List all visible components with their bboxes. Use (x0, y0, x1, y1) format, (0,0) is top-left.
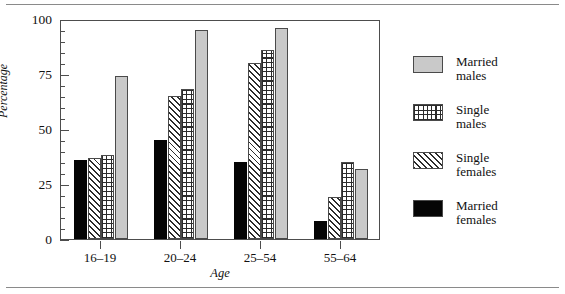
y-axis-minor-tick (60, 42, 65, 43)
y-axis-minor-tick (60, 31, 65, 32)
y-axis-tick-label: 50 (18, 123, 52, 137)
legend-item: Married males (413, 55, 498, 83)
y-axis-minor-tick (60, 64, 65, 65)
y-axis-minor-tick (60, 196, 65, 197)
y-axis-minor-tick (60, 152, 65, 153)
legend-label: Married females (456, 199, 498, 227)
legend-label: Single females (456, 151, 496, 179)
x-axis-tick (100, 241, 101, 249)
legend-item: Single males (413, 103, 489, 131)
legend-item: Single females (413, 151, 496, 179)
y-axis-minor-tick (60, 119, 65, 120)
y-axis-minor-tick (60, 108, 65, 109)
x-axis-tick-label: 16–19 (60, 250, 140, 266)
y-axis-major-tick (60, 185, 69, 186)
legend-swatch (413, 152, 443, 169)
figure: Percentage 025507510016–1920–2425–5455–6… (0, 0, 565, 294)
y-axis-minor-tick (60, 174, 65, 175)
legend-label: Single males (456, 103, 489, 131)
y-axis-minor-tick (60, 229, 65, 230)
x-axis-tick (180, 241, 181, 249)
x-axis-title: Age (0, 266, 440, 281)
x-axis-tick (260, 241, 261, 249)
legend-label: Married males (456, 55, 498, 83)
x-axis-tick (340, 241, 341, 249)
y-axis-tick-label: 75 (18, 68, 52, 82)
x-axis-tick-label: 25–54 (220, 250, 300, 266)
legend-swatch (413, 200, 443, 217)
legend-swatch (413, 56, 443, 73)
y-axis-minor-tick (60, 53, 65, 54)
axis-layer: 025507510016–1920–2425–5455–64 (0, 0, 565, 294)
x-axis-tick-label: 55–64 (300, 250, 380, 266)
y-axis-minor-tick (60, 86, 65, 87)
y-axis-major-tick (60, 20, 69, 21)
y-axis-minor-tick (60, 97, 65, 98)
y-axis-major-tick (60, 240, 69, 241)
y-axis-tick-label: 100 (18, 13, 52, 27)
y-axis-major-tick (60, 75, 69, 76)
y-axis-minor-tick (60, 141, 65, 142)
y-axis-tick-label: 0 (18, 233, 52, 247)
y-axis-minor-tick (60, 163, 65, 164)
legend-item: Married females (413, 199, 498, 227)
x-axis-tick-label: 20–24 (140, 250, 220, 266)
legend-swatch (413, 104, 443, 121)
y-axis-minor-tick (60, 207, 65, 208)
y-axis-minor-tick (60, 218, 65, 219)
y-axis-tick-label: 25 (18, 178, 52, 192)
y-axis-major-tick (60, 130, 69, 131)
